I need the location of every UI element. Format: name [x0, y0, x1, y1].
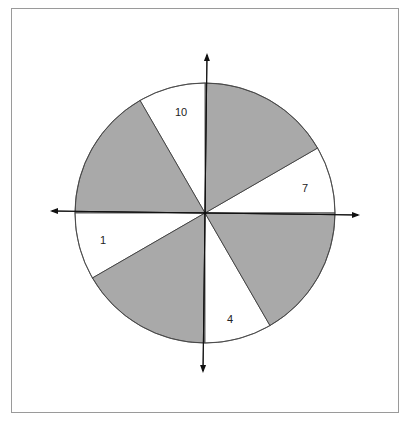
- spinner-diagram: 10 7 1 4: [0, 0, 408, 426]
- sector-label-7: 7: [302, 182, 308, 194]
- sector-label-10: 10: [175, 106, 187, 118]
- sector-label-1: 1: [100, 234, 106, 246]
- center-point: [204, 212, 207, 215]
- sector-label-4: 4: [227, 313, 233, 325]
